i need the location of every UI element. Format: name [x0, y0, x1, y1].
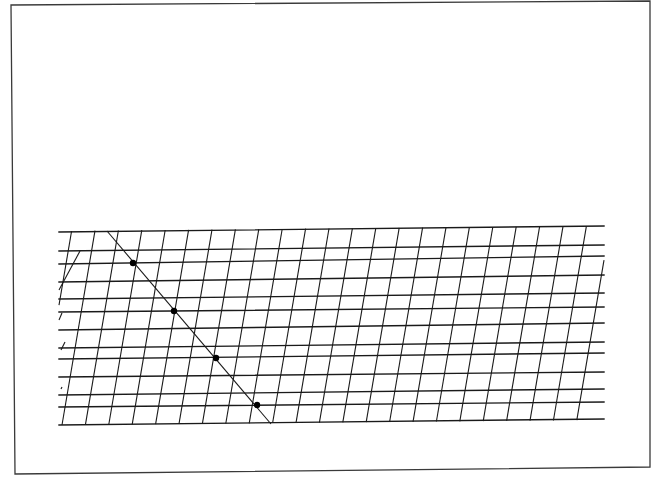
slanted-grid-lines	[59, 226, 604, 425]
horizontal-grid-line	[59, 342, 604, 348]
horizontal-grid-line	[59, 293, 604, 299]
horizontal-grid-line	[59, 419, 604, 425]
marked-point-dot	[171, 308, 177, 314]
slanted-grid-line-partial	[61, 387, 62, 389]
horizontal-grid-line	[59, 389, 604, 395]
horizontal-grid-line	[59, 245, 604, 251]
slanted-grid-line-partial	[59, 313, 62, 320]
marked-point-dot	[213, 355, 219, 361]
horizontal-grid-line	[59, 256, 604, 264]
horizontal-grid-line	[59, 275, 604, 282]
slanted-grid-line-partial	[61, 342, 65, 350]
horizontal-grid-line	[59, 307, 604, 312]
marked-point-dot	[130, 260, 136, 266]
slanted-grid-line	[577, 260, 604, 420]
diagram-canvas	[0, 0, 665, 495]
sheared-grid-diagram	[0, 0, 665, 495]
marked-point-dot	[254, 402, 260, 408]
horizontal-grid-line	[59, 402, 604, 407]
horizontal-grid-line	[59, 226, 604, 232]
slanted-grid-line-clipped	[59, 231, 72, 305]
